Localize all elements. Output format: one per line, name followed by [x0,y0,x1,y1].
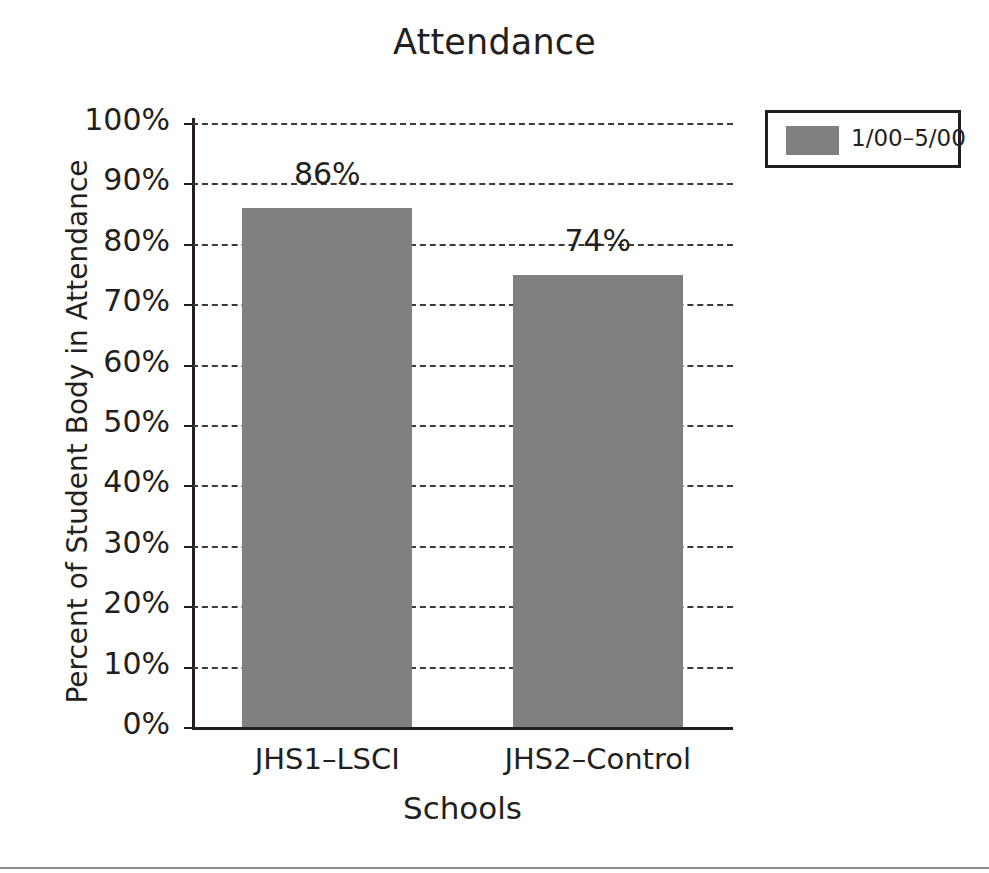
legend-label-series-1: 1/00–5/00 [851,125,966,151]
y-tick-mark [184,425,193,427]
y-tick-mark [184,667,193,669]
gridline [192,123,733,125]
y-tick-label: 100% [50,105,170,135]
y-tick-mark [184,546,193,548]
y-tick-mark [184,244,193,246]
y-tick-label: 80% [50,226,170,256]
x-axis-line [192,727,733,730]
bar-value-label: 74% [498,223,698,258]
bottom-divider [0,867,989,869]
y-tick-label: 50% [50,407,170,437]
y-axis-line [192,118,195,730]
y-tick-label: 60% [50,347,170,377]
y-tick-mark [184,727,193,729]
y-tick-mark [184,365,193,367]
y-tick-label: 0% [50,709,170,739]
y-tick-mark [184,606,193,608]
x-axis-title: Schools [192,790,733,826]
y-tick-label: 30% [50,528,170,558]
y-tick-mark [184,485,193,487]
x-tick-label: JHS1–LSCI [177,742,477,776]
y-tick-label: 70% [50,286,170,316]
x-tick-label: JHS2–Control [448,742,748,776]
legend: 1/00–5/00 [765,110,961,168]
y-tick-label: 10% [50,649,170,679]
chart-figure: Attendance Percent of Student Body in At… [0,0,989,873]
y-tick-mark [184,183,193,185]
y-tick-label: 90% [50,165,170,195]
bar-value-label: 86% [227,156,427,191]
y-tick-label: 20% [50,588,170,618]
bar [242,208,412,727]
chart-title: Attendance [0,22,989,62]
y-tick-label: 40% [50,467,170,497]
legend-swatch-series-1 [786,126,839,155]
y-tick-mark [184,123,193,125]
y-tick-mark [184,304,193,306]
bar [513,275,683,727]
